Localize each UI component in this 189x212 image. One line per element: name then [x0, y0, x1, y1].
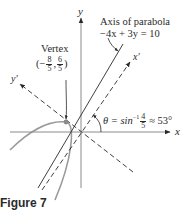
- axis-label-pointer: [108, 38, 118, 51]
- angle-fraction: 45: [140, 113, 146, 130]
- axis-of-parabola-equation: −4x + 3y = 10: [100, 29, 160, 40]
- rotated-parabola-figure: y x x′ y′ Axis of parabola −4x + 3y = 10…: [0, 0, 189, 212]
- vertex-title: Vertex: [41, 44, 68, 55]
- vertex-open: (−: [36, 59, 45, 70]
- vertex-x-fraction: 85: [46, 56, 52, 73]
- axis-of-parabola-title: Axis of parabola: [100, 17, 170, 28]
- figure-caption: Figure 7: [0, 196, 47, 210]
- angle-label: θ = sin −1 45 ≈ 53°: [103, 113, 172, 130]
- y-prime-axis-label: y′: [11, 74, 18, 84]
- vertex-coordinates: (− 85 , 65 ): [36, 56, 68, 73]
- vertex-dot: [64, 120, 69, 125]
- x-axis-label: x: [175, 126, 180, 137]
- x-prime-axis-label: x′: [133, 52, 140, 62]
- angle-arc: [93, 115, 101, 132]
- angle-rhs: ≈ 53°: [149, 116, 172, 127]
- figure-graphics: [0, 0, 189, 212]
- y-axis-label: y: [78, 6, 83, 17]
- angle-lhs: θ = sin: [103, 116, 133, 127]
- vertex-close: ): [64, 59, 68, 70]
- vertex-y-fraction: 65: [57, 56, 63, 73]
- angle-sup: −1: [133, 114, 139, 120]
- vertex-sep: ,: [53, 59, 56, 70]
